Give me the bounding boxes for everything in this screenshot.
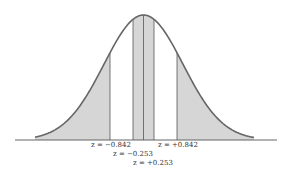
label-z-pos-0253: z = +0.253 xyxy=(133,159,173,167)
label-z-neg-0253: z = −0.253 xyxy=(113,150,153,158)
shaded-right-tail xyxy=(177,53,254,140)
label-z-pos-0842: z = +0.842 xyxy=(158,141,198,149)
normal-curve-diagram xyxy=(0,0,291,173)
label-z-neg-0842: z = −0.842 xyxy=(91,141,131,149)
shaded-left-tail xyxy=(35,53,110,140)
